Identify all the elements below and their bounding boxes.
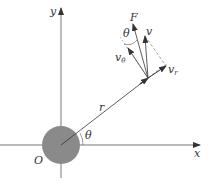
angle-arc-origin: [80, 133, 83, 145]
radius-label: r: [99, 101, 105, 114]
velocity-label: v: [146, 25, 153, 38]
parallelogram-dashed-1: [145, 36, 166, 66]
x-axis-label: x: [194, 147, 201, 160]
angle-origin-label: θ: [85, 129, 92, 142]
angle-tip-label: θ: [123, 27, 130, 40]
angle-arc-tip: [124, 40, 137, 45]
velocity-r-label: vr: [168, 63, 178, 77]
radius-vector: [61, 78, 148, 145]
y-axis-label: y: [49, 5, 57, 18]
velocity-r-vector: [148, 66, 166, 78]
velocity-theta-label: vθ: [115, 51, 126, 65]
force-label: F: [129, 11, 138, 24]
polar-diagram: y x O r θ θ F v vθ vr: [0, 0, 215, 188]
origin-label: O: [34, 154, 43, 167]
